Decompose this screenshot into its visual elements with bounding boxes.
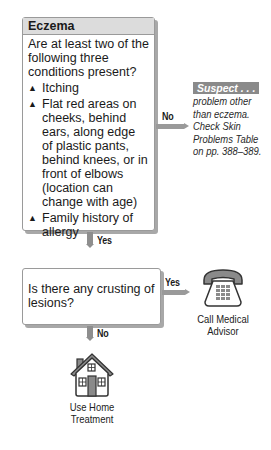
house-icon — [68, 350, 116, 398]
telephone-icon — [200, 266, 246, 310]
condition-item: ▲ Flat red areas on cheeks, behind ears,… — [28, 97, 149, 209]
yes-arrow-right — [162, 290, 185, 295]
no-label: No — [162, 110, 174, 122]
box-body: Is there any crusting of lesions? — [23, 269, 160, 314]
no-arrow-down — [87, 326, 93, 337]
no-label: No — [97, 327, 109, 339]
suspect-tag: Suspect . . . — [193, 82, 259, 94]
question-text: Is there any crusting of lesions? — [28, 282, 155, 310]
box-body: Are at least two of the following three … — [23, 35, 154, 243]
box-title: Eczema — [23, 18, 154, 35]
no-arrow-right — [156, 124, 184, 129]
yes-arrow-down — [87, 232, 93, 244]
suspect-text: problem other than eczema. Check Skin Pr… — [193, 95, 265, 158]
call-medical-advisor-label: Call Medical Advisor — [189, 313, 257, 337]
triangle-bullet-icon: ▲ — [28, 82, 37, 95]
eczema-question-box: Eczema Are at least two of the following… — [22, 17, 155, 231]
triangle-bullet-icon: ▲ — [28, 212, 37, 225]
question-text: Are at least two of the following three … — [28, 37, 149, 79]
condition-list: ▲ Itching ▲ Flat red areas on cheeks, be… — [28, 81, 149, 239]
yes-label: Yes — [165, 276, 180, 288]
crusting-question-box: Is there any crusting of lesions? — [22, 268, 161, 325]
condition-item: ▲ Itching — [28, 81, 149, 95]
yes-label: Yes — [97, 234, 112, 246]
use-home-treatment-label: Use Home Treatment — [58, 401, 126, 425]
triangle-bullet-icon: ▲ — [28, 98, 37, 111]
